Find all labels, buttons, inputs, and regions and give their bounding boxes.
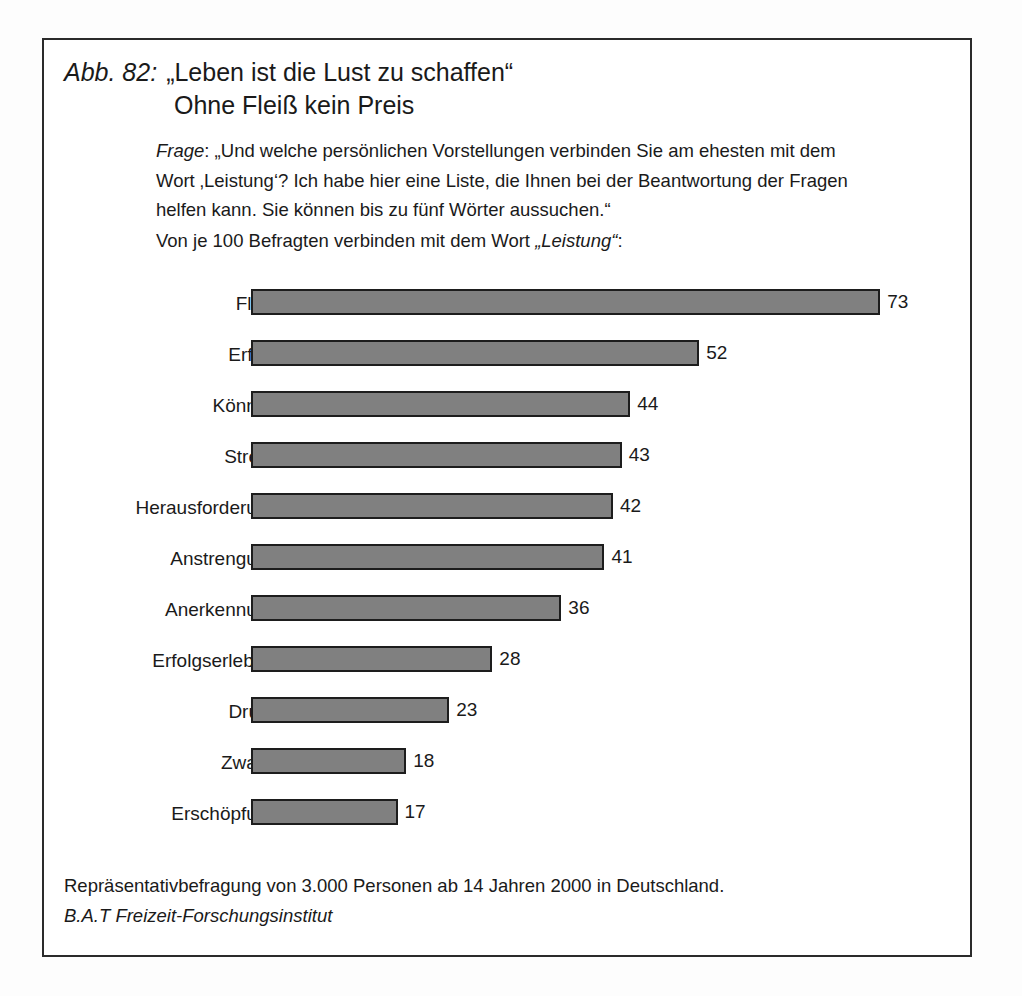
bar-value-label: 43 (622, 444, 650, 466)
bar-category-label: Anerkennung (0, 599, 278, 621)
question-line-3: helfen kann. Sie können bis zu fünf Wört… (156, 195, 916, 225)
bar-track: 52 (251, 340, 727, 366)
bar-category-label: Erfolgserlebnis (0, 650, 278, 672)
bar-track: 42 (251, 493, 641, 519)
bar-track: 73 (251, 289, 908, 315)
bar-category-label: Anstrengung (0, 548, 278, 570)
bar-track: 43 (251, 442, 650, 468)
bar-category-label: Erschöpfung (0, 803, 278, 825)
figure-footer: Repräsentativbefragung von 3.000 Persone… (64, 871, 952, 931)
bar-rect (251, 442, 622, 468)
bar-category-label: Stress (0, 446, 278, 468)
figure-title-text: „Leben ist die Lust zu schaffen“ (166, 56, 513, 89)
figure-header: Abb. 82: „Leben ist die Lust zu schaffen… (64, 56, 952, 122)
bar-rect (251, 493, 613, 519)
bar-value-label: 17 (398, 801, 426, 823)
bar-value-label: 41 (604, 546, 632, 568)
bar-rect (251, 544, 604, 570)
source-note: B.A.T Freizeit-Forschungsinstitut (64, 901, 952, 931)
bar-track: 23 (251, 697, 477, 723)
bar-track: 28 (251, 646, 521, 672)
bar-rect (251, 391, 630, 417)
figure-frame: Abb. 82: „Leben ist die Lust zu schaffen… (42, 38, 972, 957)
question-block: Frage: „Und welche persönlichen Vorstell… (156, 136, 916, 255)
chart-intro-emphasis: „Leistung“ (535, 230, 617, 251)
bar-value-label: 18 (406, 750, 434, 772)
bar-rect (251, 748, 406, 774)
question-line-1-text: : „Und welche persönlichen Vorstellungen… (204, 140, 835, 161)
bar-value-label: 28 (492, 648, 520, 670)
bar-category-label: Zwang (0, 752, 278, 774)
bar-rect (251, 595, 561, 621)
chart-intro-after: : (617, 230, 622, 251)
figure-title-line-1: Abb. 82: „Leben ist die Lust zu schaffen… (64, 56, 952, 89)
methodology-note: Repräsentativbefragung von 3.000 Persone… (64, 871, 952, 901)
bar-rect (251, 289, 880, 315)
bar-chart: Fleiß73Erfolg52Können44Stress43Herausfor… (44, 280, 970, 841)
bar-track: 41 (251, 544, 633, 570)
bar-row: Anstrengung41 (44, 535, 970, 586)
bar-row: Anerkennung36 (44, 586, 970, 637)
bar-track: 36 (251, 595, 589, 621)
bar-rect (251, 646, 492, 672)
bar-row: Erfolgserlebnis28 (44, 637, 970, 688)
bar-value-label: 44 (630, 393, 658, 415)
bar-value-label: 42 (613, 495, 641, 517)
bar-category-label: Herausforderung (0, 497, 278, 519)
figure-number: Abb. 82: (64, 56, 166, 89)
bar-value-label: 36 (561, 597, 589, 619)
bar-row: Erschöpfung17 (44, 790, 970, 841)
question-line-1: Frage: „Und welche persönlichen Vorstell… (156, 136, 916, 166)
bar-row: Stress43 (44, 433, 970, 484)
bar-rect (251, 340, 699, 366)
bar-category-label: Erfolg (0, 344, 278, 366)
figure-title-line-2: Ohne Fleiß kein Preis (64, 89, 952, 122)
question-line-2: Wort ‚Leistung‘? Ich habe hier eine List… (156, 166, 916, 196)
bar-value-label: 52 (699, 342, 727, 364)
bar-row: Fleiß73 (44, 280, 970, 331)
bar-track: 17 (251, 799, 426, 825)
question-prefix: Frage (156, 140, 204, 161)
bar-row: Herausforderung42 (44, 484, 970, 535)
bar-value-label: 73 (880, 291, 908, 313)
bar-row: Können44 (44, 382, 970, 433)
bar-row: Zwang18 (44, 739, 970, 790)
chart-intro-before: Von je 100 Befragten verbinden mit dem W… (156, 230, 535, 251)
bar-value-label: 23 (449, 699, 477, 721)
bar-track: 18 (251, 748, 434, 774)
chart-intro-line: Von je 100 Befragten verbinden mit dem W… (156, 226, 916, 256)
bar-category-label: Druck (0, 701, 278, 723)
bar-row: Erfolg52 (44, 331, 970, 382)
bar-category-label: Fleiß (0, 293, 278, 315)
bar-category-label: Können (0, 395, 278, 417)
bar-track: 44 (251, 391, 658, 417)
bar-rect (251, 697, 449, 723)
bar-rect (251, 799, 398, 825)
bar-row: Druck23 (44, 688, 970, 739)
